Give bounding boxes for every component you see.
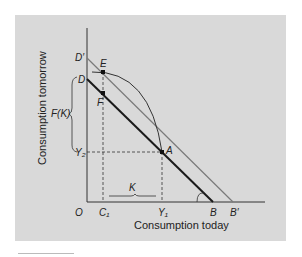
label-b-prime: B′ <box>230 207 240 218</box>
label-d-prime: D′ <box>75 52 85 63</box>
consumption-investment-diagram: D′ E D F F(K) Y₂ A K O C₁ Y₁ B B′ Consum… <box>0 0 302 257</box>
label-b: B <box>210 207 217 218</box>
label-f: F <box>97 97 104 108</box>
point-F <box>101 91 105 95</box>
label-y2: Y₂ <box>75 147 86 158</box>
label-d: D <box>78 74 85 85</box>
k-brace <box>109 194 156 196</box>
label-fk: F(K) <box>51 108 70 119</box>
angle-arc <box>197 193 204 202</box>
production-curve <box>92 72 162 152</box>
x-axis-title: Consumption today <box>134 219 229 231</box>
line-DB <box>87 79 213 202</box>
footer-rule <box>18 253 74 254</box>
line-DprimeBprime <box>87 58 233 202</box>
label-k: K <box>129 182 137 193</box>
label-origin: O <box>75 207 83 218</box>
point-A <box>160 150 164 154</box>
label-y1: Y₁ <box>158 207 168 218</box>
label-c1: C₁ <box>99 207 109 218</box>
y-axis-title: Consumption tomorrow <box>36 51 48 165</box>
point-E <box>101 70 105 74</box>
label-a: A <box>165 145 173 156</box>
label-e: E <box>100 58 107 69</box>
